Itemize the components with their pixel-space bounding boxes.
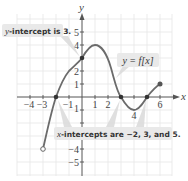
svg-text:y-intercept is 3.: y-intercept is 3.	[4, 26, 71, 36]
x-intercept-point	[119, 95, 124, 100]
y-axis-label: y	[78, 1, 84, 13]
y-tick-label: 1	[74, 103, 79, 114]
y-tick-label: −4	[68, 144, 79, 155]
open-endpoint	[41, 147, 46, 152]
closed-endpoint	[158, 82, 163, 87]
x-tick-label: −1	[63, 99, 74, 110]
x-axis-label: x	[180, 90, 186, 102]
x-tick-label: 6	[158, 99, 163, 110]
y-intercept-callout: y-intercept is 3.	[2, 24, 71, 37]
x-tick-label: 4	[132, 110, 137, 121]
axes	[17, 17, 176, 176]
x-axis-arrow-icon	[173, 95, 180, 100]
y-tick-label: 2	[74, 66, 79, 77]
x-tick-label: 1	[93, 99, 98, 110]
func-label-pointer	[116, 66, 130, 78]
callout-text: -intercept is 3.	[9, 27, 71, 36]
x-intercepts-callout: x-intercepts are −2, 3, and 5.	[54, 127, 181, 140]
x-intercept-point	[145, 95, 150, 100]
function-label: y = f[x]	[121, 55, 153, 66]
x-tick-label: 2	[106, 99, 111, 110]
function-label-callout: y = f[x]	[117, 53, 159, 67]
callout-text: -intercepts are −2, 3, and 5.	[61, 130, 181, 139]
y-intercept-point	[80, 56, 85, 61]
y-tick-label: 1	[74, 79, 79, 90]
function-graph: −4 −3 −1 1 2 4 6 5 4 2 1 1 −4 −5 y x y-i…	[0, 0, 188, 181]
y-tick-label: −5	[68, 157, 79, 168]
y-axis-arrow-icon	[80, 13, 85, 20]
x-tick-label: −3	[37, 99, 48, 110]
x-intercept-point	[54, 95, 59, 100]
svg-text:x-intercepts are −2, 3, and 5.: x-intercepts are −2, 3, and 5.	[56, 129, 181, 139]
y-tick-label: 5	[74, 27, 79, 38]
x-tick-label: −4	[24, 99, 35, 110]
